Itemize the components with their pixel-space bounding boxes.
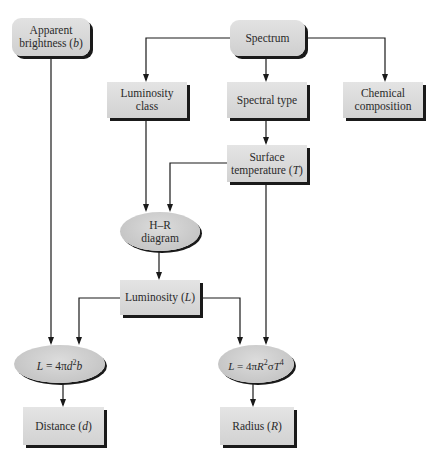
node-label: class [120, 100, 173, 113]
node-luminosity-class: Luminosity class [107, 82, 187, 118]
node-hr-diagram: H–R diagram [120, 212, 200, 251]
node-label: Luminosity (L) [125, 291, 195, 304]
node-distance: Distance (d) [23, 407, 104, 445]
node-surface-temperature: Surface temperature (T) [227, 145, 307, 182]
node-label: H–R [141, 219, 179, 232]
node-label: composition [355, 100, 412, 113]
node-label: Spectrum [245, 32, 289, 45]
node-label: Distance (d) [35, 420, 92, 433]
node-radius: Radius (R) [220, 407, 294, 445]
node-label: temperature (T) [231, 164, 303, 177]
node-label: brightness (b) [19, 37, 83, 50]
node-apparent-brightness: Apparent brightness (b) [12, 18, 90, 56]
node-label: Luminosity [120, 87, 173, 100]
flowchart-diagram: Apparent brightness (b) Spectrum Luminos… [0, 0, 439, 453]
node-label: Surface [231, 151, 303, 164]
connector-lines [0, 0, 439, 453]
node-radius-formula: L = 4πR2σT4 [218, 345, 294, 383]
node-label: Spectral type [237, 94, 297, 107]
node-luminosity: Luminosity (L) [120, 280, 200, 315]
node-label: Radius (R) [232, 420, 282, 433]
node-label: Apparent [19, 24, 83, 37]
node-label: Chemical [355, 87, 412, 100]
formula-label: L = 4πd2b [37, 356, 83, 373]
node-spectral-type: Spectral type [227, 82, 307, 118]
node-spectrum: Spectrum [230, 20, 305, 56]
formula-label: L = 4πR2σT4 [228, 356, 284, 373]
node-chemical-composition: Chemical composition [343, 82, 423, 118]
node-distance-formula: L = 4πd2b [14, 345, 105, 383]
node-label: diagram [141, 232, 179, 245]
